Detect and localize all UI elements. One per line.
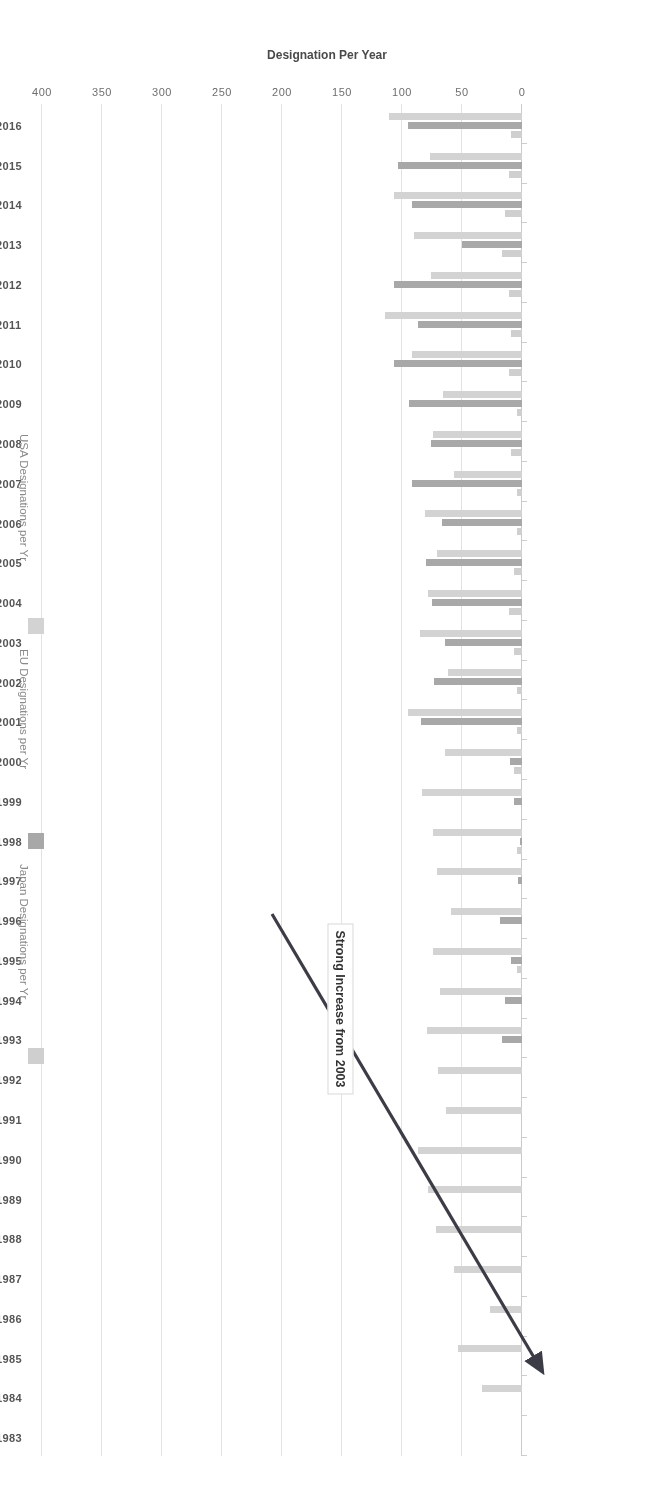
bar-usa-1985 [458, 1345, 522, 1352]
bar-usa-2011 [385, 312, 522, 319]
bar-japan-2007 [517, 489, 522, 496]
bar-group [42, 899, 522, 939]
bar-japan-2013 [502, 250, 522, 257]
bar-group [42, 1058, 522, 1098]
bar-japan-2006 [517, 528, 522, 535]
bar-usa-2001 [408, 709, 522, 716]
chart-legend: USA Designations per YrEU Designations p… [8, 424, 54, 1064]
bar-eu-2010 [394, 360, 522, 367]
bar-usa-2012 [431, 272, 522, 279]
category-tick [522, 779, 527, 780]
bar-group [42, 422, 522, 462]
category-tick [522, 660, 527, 661]
bar-usa-1994 [440, 988, 522, 995]
category-label-1990: 1990 [0, 1154, 40, 1166]
category-tick [522, 620, 527, 621]
category-tick [522, 302, 527, 303]
category-tick [522, 1216, 527, 1217]
category-tick [522, 898, 527, 899]
category-tick [522, 819, 527, 820]
bar-eu-2007 [412, 480, 522, 487]
bar-group [42, 303, 522, 343]
bar-japan-2005 [514, 568, 522, 575]
bar-group [42, 1257, 522, 1297]
category-tick [522, 540, 527, 541]
bar-group [42, 1019, 522, 1059]
bar-eu-2006 [442, 519, 522, 526]
category-tick [522, 859, 527, 860]
bar-usa-2002 [448, 669, 522, 676]
legend-label: USA Designations per Yr [18, 434, 30, 561]
bar-usa-2014 [394, 192, 522, 199]
category-tick [522, 342, 527, 343]
bar-usa-1987 [454, 1266, 522, 1273]
category-label-2016: 2016 [0, 120, 40, 132]
bar-group [42, 820, 522, 860]
bar-japan-1998 [517, 847, 522, 854]
plot-area [42, 104, 522, 1456]
bar-usa-1996 [451, 908, 522, 915]
bar-eu-1996 [500, 917, 522, 924]
value-tick-50: 50 [445, 86, 479, 98]
bar-eu-2004 [432, 599, 522, 606]
category-tick [522, 699, 527, 700]
value-tick-100: 100 [385, 86, 419, 98]
category-label-2015: 2015 [0, 160, 40, 172]
legend-swatch-icon [28, 833, 44, 849]
bar-usa-2006 [425, 510, 522, 517]
category-label-1983: 1983 [0, 1432, 40, 1444]
bar-eu-2001 [421, 718, 522, 725]
bar-eu-2000 [510, 758, 522, 765]
bar-usa-2003 [420, 630, 522, 637]
bar-usa-2005 [437, 550, 522, 557]
bar-group [42, 860, 522, 900]
bar-eu-2014 [412, 201, 522, 208]
category-label-2012: 2012 [0, 279, 40, 291]
category-label-2013: 2013 [0, 239, 40, 251]
category-label-2011: 2011 [0, 319, 40, 331]
value-tick-400: 400 [25, 86, 59, 98]
category-tick [522, 461, 527, 462]
bar-usa-2008 [433, 431, 522, 438]
bar-japan-2009 [517, 409, 522, 416]
bar-usa-1995 [433, 948, 522, 955]
bar-group [42, 184, 522, 224]
bar-group [42, 263, 522, 303]
bar-eu-2012 [394, 281, 522, 288]
bar-japan-2012 [509, 290, 522, 297]
bar-group [42, 1297, 522, 1337]
bar-group [42, 343, 522, 383]
bar-usa-1989 [428, 1186, 522, 1193]
bar-usa-2004 [428, 590, 522, 597]
category-label-2014: 2014 [0, 199, 40, 211]
bar-group [42, 1377, 522, 1417]
category-tick [522, 1097, 527, 1098]
category-label-1989: 1989 [0, 1194, 40, 1206]
category-tick [522, 1137, 527, 1138]
bar-japan-2014 [505, 210, 522, 217]
bar-japan-2002 [517, 687, 522, 694]
category-tick [522, 580, 527, 581]
bar-group [42, 382, 522, 422]
bar-group [42, 1098, 522, 1138]
category-tick [522, 978, 527, 979]
category-tick [522, 1415, 527, 1416]
annotation-callout: Strong Increase from 2003 [327, 923, 353, 1094]
category-tick [522, 222, 527, 223]
value-tick-200: 200 [265, 86, 299, 98]
bar-eu-2003 [445, 639, 522, 646]
bar-eu-1994 [505, 997, 522, 1004]
category-tick [522, 381, 527, 382]
value-tick-150: 150 [325, 86, 359, 98]
bar-eu-2008 [431, 440, 522, 447]
bar-group [42, 1217, 522, 1257]
chart-figure: Strong Increase from 2003 19831984198519… [0, 0, 654, 1494]
category-label-1987: 1987 [0, 1273, 40, 1285]
bar-eu-2015 [398, 162, 522, 169]
bar-group [42, 780, 522, 820]
bar-usa-1997 [437, 868, 522, 875]
bar-japan-2008 [511, 449, 522, 456]
bar-japan-2001 [517, 727, 522, 734]
bar-usa-2013 [414, 232, 522, 239]
category-label-1985: 1985 [0, 1353, 40, 1365]
